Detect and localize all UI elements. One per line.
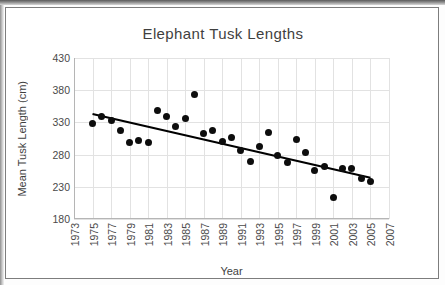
x-axis-tick-label: 1979 <box>125 223 137 246</box>
chart-frame: Elephant Tusk Lengths Mean Tusk Length (… <box>5 7 439 279</box>
data-point <box>237 147 244 154</box>
data-point <box>108 117 115 124</box>
x-axis-tick-label: 2007 <box>384 223 396 246</box>
y-axis-tick-label: 180 <box>52 213 70 225</box>
x-axis-tick-label: 1977 <box>106 223 118 246</box>
x-axis-tick-label: 1989 <box>217 223 229 246</box>
y-axis-tick-label: 330 <box>52 116 70 128</box>
data-point <box>145 139 152 146</box>
x-axis-tick-label: 1997 <box>291 223 303 246</box>
gridline-vertical <box>389 58 390 219</box>
x-axis-tick-label: 1993 <box>254 223 266 246</box>
chart-title: Elephant Tusk Lengths <box>6 25 440 42</box>
data-point <box>247 158 254 165</box>
x-axis-tick-labels: 1973197519771979198119831985198719891991… <box>74 223 389 263</box>
x-axis-title: Year <box>74 265 389 277</box>
data-point <box>154 107 161 114</box>
data-point <box>182 115 189 122</box>
x-axis-tick-label: 2001 <box>328 223 340 246</box>
y-axis-tick-label: 230 <box>52 181 70 193</box>
x-axis-tick-label: 1985 <box>180 223 192 246</box>
scan-top-edge <box>0 0 445 5</box>
y-axis-tick-labels: 180230280330380430 <box>36 58 70 219</box>
plot-area <box>74 58 389 219</box>
data-point <box>302 149 309 156</box>
data-point <box>126 139 133 146</box>
data-point <box>191 91 198 98</box>
x-axis-tick-label: 1975 <box>88 223 100 246</box>
x-axis-tick-label: 1991 <box>236 223 248 246</box>
x-axis-tick-label: 1981 <box>143 223 155 246</box>
scan-left-edge <box>0 5 4 285</box>
y-axis-title: Mean Tusk Length (cm) <box>14 58 30 219</box>
y-axis-tick-label: 380 <box>52 84 70 96</box>
x-axis-tick-label: 2003 <box>347 223 359 246</box>
scanned-page: Elephant Tusk Lengths Mean Tusk Length (… <box>0 0 445 285</box>
data-point <box>219 138 226 145</box>
data-point <box>284 159 291 166</box>
x-axis-tick-label: 1995 <box>273 223 285 246</box>
x-axis-tick-label: 1999 <box>310 223 322 246</box>
x-axis-tick-label: 1973 <box>69 223 81 246</box>
x-axis-tick-label: 2005 <box>365 223 377 246</box>
data-point <box>311 167 318 174</box>
y-axis-tick-label: 430 <box>52 52 70 64</box>
data-point <box>321 163 328 170</box>
x-axis-tick-label: 1983 <box>162 223 174 246</box>
y-axis-tick-label: 280 <box>52 149 70 161</box>
y-axis-title-text: Mean Tusk Length (cm) <box>16 81 28 197</box>
data-point <box>358 175 365 182</box>
x-axis-tick-label: 1987 <box>199 223 211 246</box>
data-point <box>89 120 96 127</box>
trendline-segment <box>93 114 371 178</box>
gridline-horizontal <box>74 219 389 220</box>
